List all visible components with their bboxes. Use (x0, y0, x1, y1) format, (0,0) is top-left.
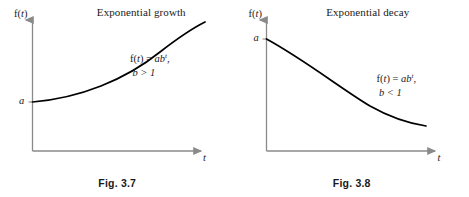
panel-title-growth: Exponential growth (0, 6, 259, 18)
y-axis-label-growth: f(t) (14, 8, 27, 19)
figure-exponential-growth: Exponential growth f(t) t a f(t) = abt, … (0, 0, 235, 197)
equation-decay-text: f(t) = abt, (377, 73, 417, 84)
x-axis-label-growth: t (203, 152, 206, 163)
equation-decay: f(t) = abt, b < 1 (377, 72, 417, 100)
exponential-decay-plot (235, 0, 469, 197)
equation-growth-condition: b > 1 (130, 66, 170, 80)
y-intercept-label-decay: a (254, 32, 259, 43)
equation-growth: f(t) = abt, b > 1 (130, 52, 170, 80)
exponential-growth-plot (0, 0, 234, 197)
y-axis-label-decay: f(t) (249, 8, 262, 19)
panel-title-decay: Exponential decay (235, 6, 469, 18)
equation-growth-text: f(t) = abt, (130, 53, 170, 64)
figure-pair: Exponential growth f(t) t a f(t) = abt, … (0, 0, 469, 197)
figure-caption-growth: Fig. 3.7 (0, 177, 235, 189)
equation-decay-condition: b < 1 (377, 86, 417, 100)
figure-caption-decay: Fig. 3.8 (235, 177, 469, 189)
growth-curve (33, 22, 206, 102)
y-intercept-label-growth: a (19, 95, 24, 106)
figure-exponential-decay: Exponential decay f(t) t a f(t) = abt, b… (235, 0, 469, 197)
x-axis-label-decay: t (438, 152, 441, 163)
